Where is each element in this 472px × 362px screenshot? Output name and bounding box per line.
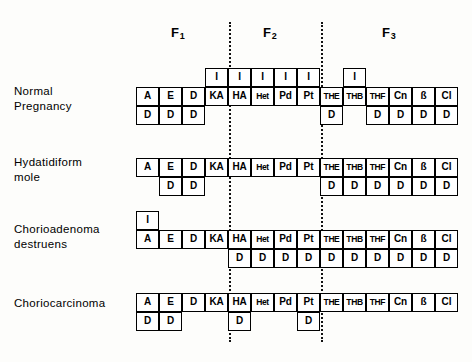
cell-chorioadenoma-destruens-top-a: I [136,211,159,230]
cell-chorioadenoma-destruens-bot-ha: D [228,249,251,268]
cell-normal-pregnancy-mid-ß: ß [412,87,435,106]
cell-normal-pregnancy-bot-e: D [159,106,182,125]
cell-choriocarcinoma-mid-ka: KA [205,293,228,312]
cell-hydatidiform-mole-bot-cl: D [435,177,458,196]
cell-chorioadenoma-destruens-mid-pt: Pt [297,230,320,249]
cell-choriocarcinoma-mid-thf: THF [366,293,389,312]
cell-choriocarcinoma-mid-d: D [182,293,205,312]
cell-choriocarcinoma-bot-ha: D [228,312,251,331]
cell-normal-pregnancy-bot-the: D [320,106,343,125]
cell-hydatidiform-mole-bot-cn: D [389,177,412,196]
fraction-diagram: F1F2F3NormalPregnancyIIIIIIAEDKAHAHetPdP… [0,0,472,362]
cell-normal-pregnancy-bot-cn: D [389,106,412,125]
cell-normal-pregnancy-top-ka: I [205,68,228,87]
cell-chorioadenoma-destruens-mid-ß: ß [412,230,435,249]
cell-chorioadenoma-destruens-mid-e: E [159,230,182,249]
cell-choriocarcinoma-bot-a: D [136,312,159,331]
cell-normal-pregnancy-top-ha: I [228,68,251,87]
cell-chorioadenoma-destruens-bot-ß: D [412,249,435,268]
cell-normal-pregnancy-top-thb: I [343,68,366,87]
cell-hydatidiform-mole-mid-pt: Pt [297,158,320,177]
fraction-header-base: F [171,25,179,40]
cell-chorioadenoma-destruens-mid-cn: Cn [389,230,412,249]
fraction-header-subscript: 3 [391,31,396,41]
cell-choriocarcinoma-mid-ha: HA [228,293,251,312]
cell-hydatidiform-mole-bot-e: D [159,177,182,196]
cell-choriocarcinoma-mid-e: E [159,293,182,312]
cell-hydatidiform-mole-bot-the: D [320,177,343,196]
cell-chorioadenoma-destruens-bot-the: D [320,249,343,268]
cell-choriocarcinoma-mid-ß: ß [412,293,435,312]
cell-chorioadenoma-destruens-mid-thb: THB [343,230,366,249]
cell-chorioadenoma-destruens-bot-cl: D [435,249,458,268]
cell-chorioadenoma-destruens-bot-thb: D [343,249,366,268]
cell-hydatidiform-mole-bot-thf: D [366,177,389,196]
cell-hydatidiform-mole-mid-d: D [182,158,205,177]
cell-normal-pregnancy-mid-cl: Cl [435,87,458,106]
cell-hydatidiform-mole-bot-d: D [182,177,205,196]
row-label-line: Normal [14,84,72,99]
cell-hydatidiform-mole-mid-e: E [159,158,182,177]
cell-normal-pregnancy-mid-e: E [159,87,182,106]
fraction-header-subscript: 2 [272,31,277,41]
cell-normal-pregnancy-mid-thb: THB [343,87,366,106]
cell-hydatidiform-mole-mid-cn: Cn [389,158,412,177]
cell-chorioadenoma-destruens-mid-ha: HA [228,230,251,249]
cell-choriocarcinoma-mid-pd: Pd [274,293,297,312]
row-label-line: Pregnancy [14,99,72,114]
cell-choriocarcinoma-mid-the: THE [320,293,343,312]
cell-normal-pregnancy-mid-pt: Pt [297,87,320,106]
cell-choriocarcinoma-mid-cl: Cl [435,293,458,312]
cell-hydatidiform-mole-mid-ß: ß [412,158,435,177]
cell-hydatidiform-mole-bot-ß: D [412,177,435,196]
row-label-line: Chorioadenoma [14,222,100,237]
cell-hydatidiform-mole-mid-het: Het [251,158,274,177]
cell-hydatidiform-mole-mid-cl: Cl [435,158,458,177]
cell-normal-pregnancy-mid-cn: Cn [389,87,412,106]
cell-choriocarcinoma-mid-cn: Cn [389,293,412,312]
cell-chorioadenoma-destruens-bot-thf: D [366,249,389,268]
cell-choriocarcinoma-bot-pt: D [297,312,320,331]
cell-chorioadenoma-destruens-bot-pt: D [297,249,320,268]
cell-normal-pregnancy-bot-a: D [136,106,159,125]
row-label-normal-pregnancy: NormalPregnancy [14,84,72,113]
cell-chorioadenoma-destruens-mid-ka: KA [205,230,228,249]
cell-hydatidiform-mole-mid-a: A [136,158,159,177]
row-label-line: Choriocarcinoma [14,296,105,311]
cell-hydatidiform-mole-mid-pd: Pd [274,158,297,177]
cell-chorioadenoma-destruens-mid-d: D [182,230,205,249]
cell-normal-pregnancy-top-pt: I [297,68,320,87]
cell-chorioadenoma-destruens-bot-pd: D [274,249,297,268]
cell-hydatidiform-mole-mid-thf: THF [366,158,389,177]
cell-normal-pregnancy-mid-a: A [136,87,159,106]
row-label-line: mole [14,170,82,185]
cell-hydatidiform-mole-mid-thb: THB [343,158,366,177]
cell-chorioadenoma-destruens-mid-a: A [136,230,159,249]
cell-normal-pregnancy-bot-ß: D [412,106,435,125]
fraction-header-f2: F2 [263,25,276,40]
row-label-line: Hydatidiform [14,155,82,170]
row-label-hydatidiform-mole: Hydatidiformmole [14,155,82,184]
cell-choriocarcinoma-mid-a: A [136,293,159,312]
cell-normal-pregnancy-bot-thf: D [366,106,389,125]
cell-hydatidiform-mole-bot-thb: D [343,177,366,196]
cell-normal-pregnancy-mid-ha: HA [228,87,251,106]
fraction-header-f3: F3 [382,25,395,40]
cell-normal-pregnancy-top-pd: I [274,68,297,87]
cell-hydatidiform-mole-mid-ha: HA [228,158,251,177]
cell-choriocarcinoma-bot-e: D [159,312,182,331]
fraction-header-base: F [382,25,390,40]
cell-normal-pregnancy-bot-cl: D [435,106,458,125]
cell-chorioadenoma-destruens-mid-thf: THF [366,230,389,249]
cell-chorioadenoma-destruens-mid-pd: Pd [274,230,297,249]
cell-normal-pregnancy-mid-thf: THF [366,87,389,106]
fraction-header-f1: F1 [171,25,184,40]
cell-chorioadenoma-destruens-bot-het: D [251,249,274,268]
cell-normal-pregnancy-top-het: I [251,68,274,87]
cell-hydatidiform-mole-mid-the: THE [320,158,343,177]
row-label-choriocarcinoma: Choriocarcinoma [14,296,105,311]
row-label-line: destruens [14,237,100,252]
fraction-header-subscript: 1 [180,31,185,41]
cell-chorioadenoma-destruens-mid-the: THE [320,230,343,249]
cell-hydatidiform-mole-mid-ka: KA [205,158,228,177]
